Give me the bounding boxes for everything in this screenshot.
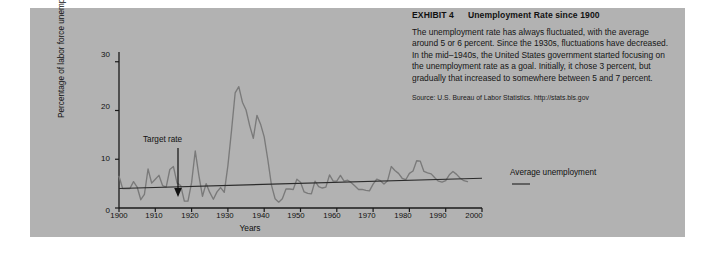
y-axis-title: Percentage of labor force unemployed	[57, 0, 66, 124]
y-tick-label-20: 20	[92, 102, 110, 111]
x-tick-label-1930: 1930	[210, 211, 240, 220]
exhibit-figure: Percentage of labor force unemployed Yea…	[0, 0, 705, 263]
exhibit-text-column: EXHIBIT 4Unemployment Rate since 1900 Th…	[412, 10, 680, 102]
x-tick-label-1910: 1910	[139, 211, 169, 220]
unemployment-series-line	[119, 87, 467, 203]
target-rate-annotation: Target rate	[143, 135, 182, 144]
x-tick-label-1970: 1970	[352, 211, 382, 220]
exhibit-number: EXHIBIT 4	[412, 10, 454, 20]
x-tick-label-1920: 1920	[175, 211, 205, 220]
y-tick-label-30: 30	[92, 50, 110, 59]
x-tick-label-1960: 1960	[317, 211, 347, 220]
x-tick-label-1950: 1950	[281, 211, 311, 220]
exhibit-heading: EXHIBIT 4Unemployment Rate since 1900	[412, 10, 680, 20]
x-tick-label-1990: 1990	[423, 211, 453, 220]
x-tick-label-1940: 1940	[246, 211, 276, 220]
average-unemployment-annotation: Average unemployment	[510, 168, 596, 177]
exhibit-body-text: The unemployment rate has always fluctua…	[412, 27, 670, 84]
average-unemployment-line	[119, 178, 482, 188]
x-tick-label-2000: 2000	[459, 211, 489, 220]
x-axis-title: Years	[190, 223, 310, 233]
exhibit-title: Unemployment Rate since 1900	[468, 10, 600, 20]
exhibit-source: Source: U.S. Bureau of Labor Statistics.…	[412, 93, 680, 102]
x-tick-label-1900: 1900	[104, 211, 134, 220]
x-tick-label-1980: 1980	[388, 211, 418, 220]
y-tick-label-10: 10	[92, 154, 110, 163]
